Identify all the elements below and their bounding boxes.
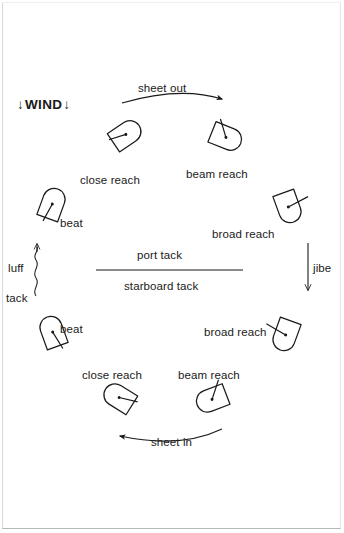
boat-label-beat-port: beat xyxy=(60,218,83,230)
wind-label: WIND xyxy=(25,98,62,112)
boat-label-broad-reach-port: broad reach xyxy=(212,229,274,241)
boat-close-reach-port xyxy=(106,116,146,153)
sheet-out-arrow xyxy=(122,93,222,103)
boat-close-reach-starboard xyxy=(100,380,140,417)
boat-label-broad-reach-stbd: broad reach xyxy=(204,327,266,339)
sheet-out-label: sheet out xyxy=(138,83,186,95)
sheet-in-label: sheet in xyxy=(151,437,192,449)
jibe-label: jibe xyxy=(313,263,331,275)
wind-arrow-left-icon: ↓ xyxy=(17,98,24,112)
boat-label-beat-stbd: beat xyxy=(60,324,83,336)
diagram-page: ↓ WIND ↓ sheet out sheet in jibe luff ta… xyxy=(0,0,344,533)
boat-broad-reach-port xyxy=(273,185,315,225)
wind-indicator: ↓ WIND ↓ xyxy=(17,98,70,112)
wind-arrow-right-icon: ↓ xyxy=(63,98,70,112)
points-of-sail-canvas xyxy=(0,0,344,533)
boat-label-beam-reach-stbd: beam reach xyxy=(178,370,240,382)
luff-label: luff xyxy=(8,263,24,275)
port-tack-label: port tack xyxy=(137,250,182,262)
boat-beam-reach-port xyxy=(208,118,246,154)
boat-label-close-reach-stbd: close reach xyxy=(82,370,142,382)
boat-label-close-reach-port: close reach xyxy=(80,175,140,187)
boat-beam-reach-starboard xyxy=(191,379,230,415)
boat-label-beam-reach-port: beam reach xyxy=(186,169,248,181)
luff-wavy-line xyxy=(35,247,38,296)
starboard-tack-label: starboard tack xyxy=(124,281,198,293)
tack-label: tack xyxy=(6,293,28,305)
